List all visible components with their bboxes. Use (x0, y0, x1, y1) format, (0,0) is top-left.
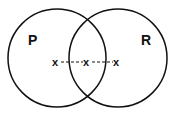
venn-svg: P R x x x (0, 0, 178, 114)
set-label-r: R (141, 32, 151, 48)
point-x-middle: x (83, 56, 90, 68)
set-label-p: P (28, 32, 37, 48)
point-x-right: x (113, 56, 120, 68)
point-x-left: x (52, 56, 59, 68)
venn-diagram: P R x x x (0, 0, 178, 114)
